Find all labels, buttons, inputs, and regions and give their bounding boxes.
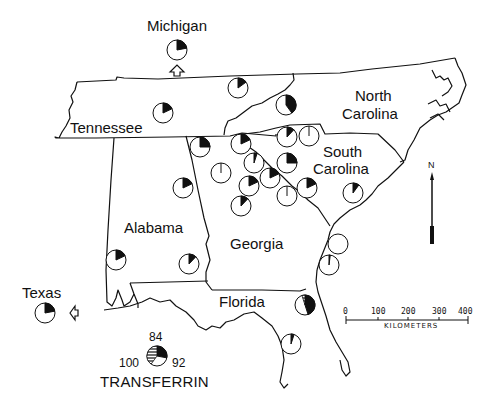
texas-arrow-icon: [70, 306, 78, 320]
label-texas: Texas: [22, 285, 61, 301]
pie-chart-marker: [276, 95, 296, 115]
legend-allele-92: 92: [172, 356, 185, 370]
pie-chart-marker: [295, 295, 315, 315]
label-florida: Florida: [219, 294, 265, 310]
pie-chart-marker: [299, 126, 319, 146]
legend-allele-100: 100: [119, 356, 139, 370]
scale-tick-400: 400: [458, 307, 472, 316]
north-arrow-icon: [430, 172, 434, 244]
pie-chart-marker: [173, 178, 193, 198]
legend-title: TRANSFERRIN: [100, 373, 209, 390]
scale-tick-200: 200: [401, 307, 415, 316]
pie-chart-marker: [211, 163, 231, 183]
sc-coast: [317, 162, 404, 270]
pie-chart-marker: [239, 176, 259, 196]
pie-chart-marker: [153, 103, 173, 123]
label-north-carolina-2: Carolina: [342, 106, 398, 122]
north-label: N: [428, 160, 435, 170]
florida-east-coast: [316, 270, 350, 376]
pie-chart-marker: [231, 196, 251, 216]
label-alabama: Alabama: [124, 220, 183, 236]
pie-chart-marker: [147, 346, 167, 366]
pie-chart-marker: [277, 153, 297, 173]
pie-layer: [35, 40, 363, 366]
label-michigan: Michigan: [147, 18, 207, 34]
legend-allele-84: 84: [149, 330, 162, 344]
scale-unit: KILOMETERS: [384, 322, 438, 330]
nc-sounds: [428, 70, 452, 120]
label-south-carolina-2: Carolina: [313, 161, 369, 177]
pie-chart-marker: [231, 134, 251, 154]
label-tennessee: Tennessee: [70, 120, 143, 136]
pie-chart-marker: [190, 137, 210, 157]
pie-chart-marker: [297, 178, 317, 198]
label-north-carolina-1: North: [355, 88, 392, 104]
pie-chart-marker: [260, 168, 280, 188]
pie-chart-marker: [167, 40, 187, 60]
pie-chart-marker: [277, 127, 297, 147]
scale-tick-300: 300: [432, 307, 446, 316]
pie-chart-marker: [343, 183, 363, 203]
pie-chart-marker: [106, 250, 126, 270]
label-georgia: Georgia: [230, 236, 283, 252]
pie-chart-marker: [281, 334, 301, 354]
label-south-carolina-1: South: [323, 144, 362, 160]
michigan-arrow-icon: [170, 65, 184, 76]
pie-chart-marker: [319, 255, 339, 275]
pie-chart-marker: [244, 153, 264, 173]
scale-tick-0: 0: [343, 307, 348, 316]
pie-chart-marker: [228, 78, 248, 98]
al-fl-border: [130, 281, 306, 291]
pie-chart-marker: [277, 186, 297, 206]
pie-chart-marker: [179, 254, 199, 274]
pie-chart-marker: [328, 234, 348, 254]
scale-tick-100: 100: [371, 307, 385, 316]
nc-coast: [400, 58, 466, 162]
pie-chart-marker: [35, 303, 55, 323]
map-canvas: [0, 0, 498, 416]
